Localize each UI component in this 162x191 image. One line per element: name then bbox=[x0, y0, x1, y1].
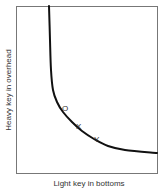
y-axis-label: Heavy key in overhead bbox=[4, 49, 13, 130]
point-annotations: OXY bbox=[62, 104, 100, 144]
chart: OXY Light key in bottoms Heavy key in ov… bbox=[0, 0, 162, 191]
plot-frame bbox=[17, 7, 158, 174]
annotation-y: Y bbox=[94, 135, 100, 144]
annotation-x: X bbox=[76, 122, 82, 131]
x-axis-label: Light key in bottoms bbox=[53, 179, 124, 188]
annotation-o: O bbox=[62, 104, 68, 113]
separation-curve bbox=[49, 6, 157, 153]
